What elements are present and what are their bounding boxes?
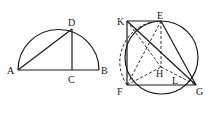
circle-figure: K E F G H L [117,10,203,97]
label-l: L [172,75,178,86]
label-b: B [101,65,108,76]
label-k: K [117,16,125,27]
label-d: D [68,17,75,28]
label-c: C [68,74,75,85]
semicircle-figure: A B C D [7,17,108,85]
circumcircle [125,21,198,94]
label-g: G [196,86,203,97]
label-h: H [156,68,163,79]
geometry-diagram: A B C D K E F G H L [0,0,216,115]
label-a: A [7,65,15,76]
segment-eg [161,21,196,85]
segment-kh [127,21,161,67]
label-f: F [117,86,123,97]
label-e: E [157,10,163,21]
semicircle-arc [18,30,99,71]
segment-ad [18,29,72,70]
